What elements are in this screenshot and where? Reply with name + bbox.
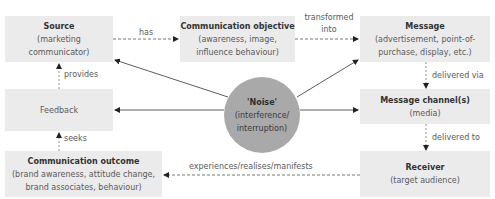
source-node: Source (marketing communicator) — [5, 16, 113, 62]
transformed-into-label: transformed into — [300, 12, 358, 36]
receiver-title: Receiver — [405, 161, 444, 174]
message-node: Message (advertisement, point-of- purcha… — [360, 16, 490, 62]
message-title: Message — [405, 20, 444, 33]
noise-line-2: interruption) — [237, 122, 287, 135]
receiver-node: Receiver (target audience) — [360, 151, 490, 197]
outcome-line-2: brand associates, behaviour) — [25, 181, 141, 194]
has-label: has — [139, 27, 153, 39]
feedback-node: Feedback — [5, 89, 113, 131]
outcome-line-1: (brand awareness, attitude change, — [12, 168, 155, 181]
source-title: Source — [43, 20, 74, 33]
objective-title: Communication objective — [180, 20, 294, 33]
message-line-1: (advertisement, point-of- — [375, 33, 475, 46]
transformed-label-line-1: transformed — [300, 12, 358, 24]
source-line-1: (marketing — [37, 33, 81, 46]
experiences-label: experiences/realises/manifests — [189, 161, 313, 173]
seeks-label: seeks — [64, 133, 87, 145]
provides-label: provides — [64, 69, 98, 81]
message-line-2: purchase, display, etc.) — [378, 46, 471, 59]
communication-outcome-node: Communication outcome (brand awareness, … — [5, 151, 162, 197]
objective-line-1: (awareness, image, — [198, 33, 276, 46]
transformed-label-line-2: into — [300, 24, 358, 36]
feedback-title: Feedback — [40, 104, 78, 117]
noise-title: 'Noise' — [247, 96, 277, 109]
source-line-2: communicator) — [29, 46, 90, 59]
outcome-title: Communication outcome — [28, 155, 140, 168]
noise-line-1: (interference/ — [235, 109, 290, 122]
channel-title: Message channel(s) — [380, 94, 470, 107]
delivered-to-label: delivered to — [432, 132, 480, 144]
receiver-line-1: (target audience) — [390, 174, 460, 187]
noise-to-message-arrow — [297, 60, 358, 97]
objective-line-2: influence behaviour) — [196, 46, 279, 59]
noise-to-source-arrow — [115, 60, 228, 97]
message-channel-node: Message channel(s) (media) — [360, 89, 490, 124]
channel-line-1: (media) — [409, 107, 440, 120]
delivered-via-label: delivered via — [432, 70, 484, 82]
noise-node: 'Noise' (interference/ interruption) — [224, 77, 300, 153]
communication-objective-node: Communication objective (awareness, imag… — [180, 16, 295, 62]
